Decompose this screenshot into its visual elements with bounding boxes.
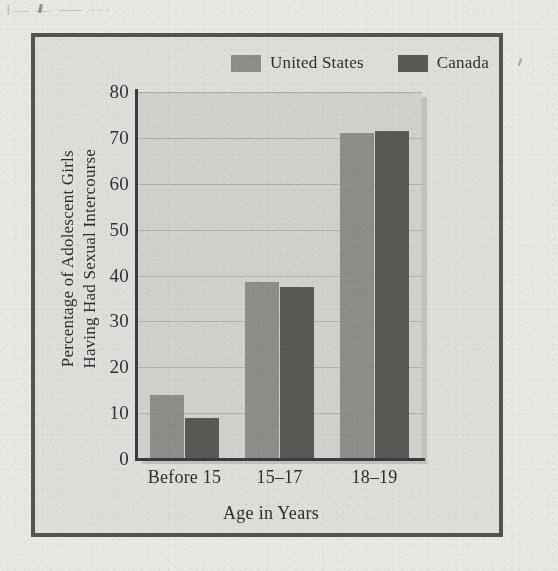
bar-canada-15–17[interactable] <box>280 287 314 459</box>
legend-label-canada: Canada <box>437 53 489 73</box>
gridline-80 <box>137 92 422 93</box>
y-axis-title-line-1: Percentage of Adolescent Girls <box>57 79 79 439</box>
y-axis-line <box>135 89 138 459</box>
x-tick-label-before-15: Before 15 <box>148 467 221 488</box>
x-tick-label-18–19: 18–19 <box>352 467 398 488</box>
figure-page: Ɨ— ― ⸺ ··· United States Canada 01020304… <box>0 0 558 571</box>
legend-swatch-canada <box>398 55 428 72</box>
chart-legend: United States Canada <box>231 53 489 73</box>
x-axis-line <box>135 458 425 461</box>
x-tick-label-15–17: 15–17 <box>257 467 303 488</box>
figure-frame: United States Canada 01020304050607080 B… <box>31 33 503 537</box>
legend-entry-canada[interactable]: Canada <box>398 53 489 73</box>
y-axis-title-line-2: Having Had Sexual Intercourse <box>79 79 101 439</box>
y-tick-label-0: 0 <box>95 448 129 470</box>
bar-united-states-before-15[interactable] <box>150 395 184 459</box>
bar-canada-18–19[interactable] <box>375 131 409 459</box>
legend-swatch-united-states <box>231 55 261 72</box>
legend-entry-united-states[interactable]: United States <box>231 53 364 73</box>
bar-united-states-18–19[interactable] <box>340 133 374 459</box>
x-axis-tick-labels: Before 1515–1718–19 <box>137 467 427 495</box>
x-axis-title: Age in Years <box>35 503 507 524</box>
legend-label-united-states: United States <box>270 53 364 73</box>
y-axis-title: Percentage of Adolescent Girls Having Ha… <box>57 79 101 439</box>
plot-wrapper <box>137 92 422 459</box>
plot-area <box>137 92 422 459</box>
scan-artifact-mark-right <box>518 58 523 66</box>
bar-united-states-15–17[interactable] <box>245 282 279 459</box>
bar-canada-before-15[interactable] <box>185 418 219 459</box>
scan-bleed-through-text: Ɨ— ― ⸺ ··· <box>6 0 336 14</box>
